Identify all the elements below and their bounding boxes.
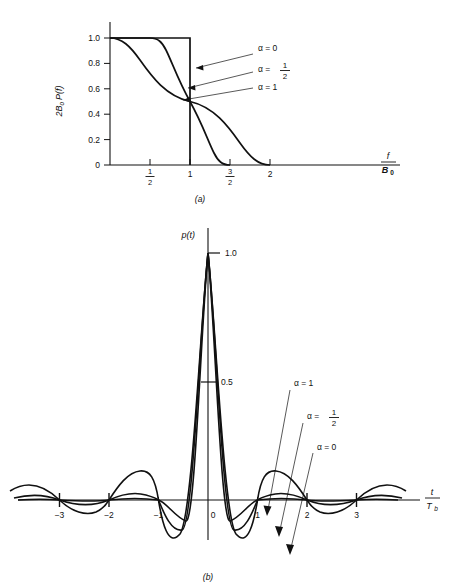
- panel-b-annotation-alpha-half-num: 1: [332, 408, 337, 417]
- svg-text:2BoP(f): 2BoP(f): [54, 85, 65, 117]
- panel-b-annotation-alpha-half-lead: α =: [307, 411, 319, 421]
- panel-a-caption: (a): [195, 194, 206, 204]
- panel-a-y-ticks: 0 0.2 0.4 0.6 0.8 1.0: [88, 33, 110, 170]
- panel-b-ytick-10: 1.0: [225, 248, 237, 258]
- panel-a-y-axis-label: 2BoP(f): [54, 85, 65, 117]
- panel-a: 0 0.2 0.4 0.6 0.8 1.0 2BoP(f) 1 2 1 3 2 …: [0, 0, 451, 210]
- panel-a-xtick-2: 2: [268, 169, 273, 179]
- panel-a-xtick-threehalves: 3 2: [226, 167, 235, 187]
- panel-b-xtick-3: 3: [354, 510, 359, 520]
- svg-text:3: 3: [228, 167, 232, 176]
- panel-a-annotation-alpha-0: α = 0: [258, 43, 278, 53]
- panel-b-annotation-alpha-half-den: 2: [332, 419, 337, 428]
- panel-a-annotations: α = 0 α = 1 2 α = 1: [183, 43, 290, 103]
- panel-a-ylabel-tail: P(f): [54, 85, 64, 100]
- panel-a-xlabel-den: B: [382, 165, 389, 175]
- panel-b-annotation-alpha-half: α = 1 2: [307, 408, 339, 428]
- panel-a-ylabel-main: 2B: [54, 106, 64, 118]
- panel-b-ytick-05: 0.5: [221, 377, 233, 387]
- panel-a-ytick-06: 0.6: [88, 84, 100, 94]
- panel-b-xtick-2: 2: [305, 510, 310, 520]
- panel-a-x-axis-label: f B 0: [381, 151, 396, 176]
- panel-a-xtick-1: 1: [188, 169, 193, 179]
- panel-b-annotations: α = 1 α = 1 2 α = 0: [264, 378, 340, 555]
- panel-b-annotation-alpha-1: α = 1: [294, 378, 314, 388]
- panel-b-annotation-alpha-0: α = 0: [317, 442, 337, 452]
- panel-b-xtick-m3: −3: [55, 510, 65, 520]
- panel-a-annotation-alpha-1: α = 1: [258, 82, 278, 92]
- panel-a-ytick-10: 1.0: [88, 33, 100, 43]
- panel-a-annotation-alpha-half: α = 1 2: [258, 61, 290, 81]
- panel-b-xlabel-num: t: [431, 487, 434, 497]
- panel-a-ytick-02: 0.2: [88, 135, 100, 145]
- panel-a-ytick-08: 0.8: [88, 58, 100, 68]
- panel-b-x-axis-label: t T b: [425, 487, 440, 512]
- panel-b-caption: (b): [203, 572, 214, 582]
- svg-text:2: 2: [228, 178, 232, 187]
- panel-a-annotation-alpha-half-lead: α =: [258, 64, 270, 74]
- panel-b: p(t) 1.0 0.5 −3 −2 −1 0 1 2 3 t T b: [0, 210, 451, 588]
- panel-b-xlabel-den-sub: b: [434, 505, 438, 512]
- panel-a-ytick-0: 0: [95, 160, 100, 170]
- panel-a-annotation-alpha-half-den: 2: [283, 72, 288, 81]
- svg-text:2: 2: [148, 178, 152, 187]
- panel-b-xtick-m2: −2: [104, 510, 114, 520]
- panel-a-xtick-half: 1 2: [146, 167, 155, 187]
- panel-b-x-ticks: −3 −2 −1 0 1 2 3: [55, 493, 359, 520]
- panel-b-y-axis-label: p(t): [181, 230, 196, 240]
- panel-a-curve-alpha-half: [110, 38, 230, 165]
- panel-a-annotation-alpha-half-num: 1: [283, 61, 288, 70]
- panel-b-xlabel-den: T: [426, 501, 433, 511]
- panel-a-curve-alpha-0: [110, 38, 190, 165]
- panel-a-xlabel-num: f: [387, 151, 391, 161]
- panel-a-x-ticks: 1 2 1 3 2 2: [146, 159, 273, 187]
- panel-a-xlabel-den-sub: 0: [390, 169, 394, 176]
- svg-text:1: 1: [148, 167, 152, 176]
- panel-b-xtick-0: 0: [211, 510, 216, 520]
- panel-a-ylabel-sub: o: [58, 102, 65, 106]
- panel-a-ytick-04: 0.4: [88, 109, 100, 119]
- figure-raised-cosine: 0 0.2 0.4 0.6 0.8 1.0 2BoP(f) 1 2 1 3 2 …: [0, 0, 451, 588]
